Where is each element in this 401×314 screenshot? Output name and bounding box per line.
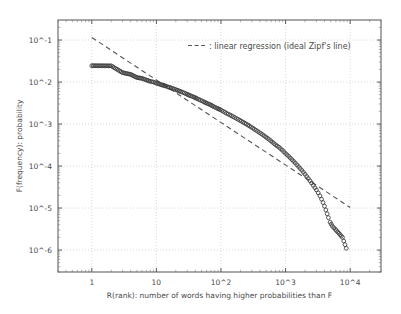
x-tick-label: 1 bbox=[89, 278, 94, 287]
plot-area-background bbox=[58, 20, 381, 272]
x-tick-label: 10^4 bbox=[340, 278, 361, 287]
x-tick-label: 10^3 bbox=[275, 278, 296, 287]
y-tick-label: 10^-6 bbox=[29, 246, 53, 255]
x-tick-label: 10^2 bbox=[211, 278, 232, 287]
y-tick-label: 10^-2 bbox=[29, 78, 53, 87]
y-tick-label: 10^-4 bbox=[29, 162, 53, 171]
y-tick-label: 10^-3 bbox=[29, 120, 53, 129]
legend: : linear regression (ideal Zipf's line) bbox=[188, 42, 351, 51]
legend-label-regression: : linear regression (ideal Zipf's line) bbox=[209, 42, 351, 51]
chart-svg: 11010^210^310^4 10^-110^-210^-310^-410^-… bbox=[0, 0, 401, 314]
x-axis-title: R(rank): number of words having higher p… bbox=[107, 291, 332, 300]
y-axis-title: F(frequency): probability bbox=[15, 99, 24, 192]
y-tick-label: 10^-5 bbox=[29, 204, 53, 213]
zipf-law-chart-figure: 11010^210^310^4 10^-110^-210^-310^-410^-… bbox=[0, 0, 401, 314]
x-tick-label: 10 bbox=[152, 278, 162, 287]
y-tick-label: 10^-1 bbox=[29, 36, 53, 45]
